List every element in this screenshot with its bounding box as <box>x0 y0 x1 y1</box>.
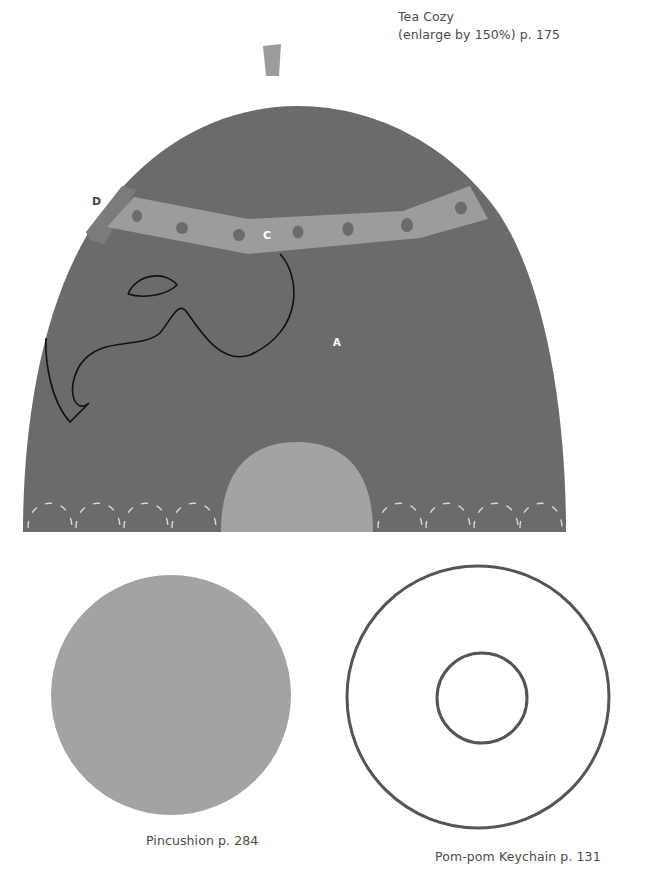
piece-label-a: A <box>333 337 341 349</box>
pincushion-caption: Pincushion p. 284 <box>146 832 258 850</box>
piece-label-c: C <box>263 230 271 242</box>
piece-label-b: B <box>267 10 275 22</box>
piece-label-d: D <box>92 196 101 208</box>
pattern-template-page: B C A D Tea Cozy (enlarge by 150%) p. 17… <box>0 0 650 887</box>
tea-cozy-caption: Tea Cozy (enlarge by 150%) p. 175 <box>398 8 560 44</box>
tea-cozy-piece-b-tab <box>263 44 281 76</box>
tea-cozy-title: Tea Cozy <box>398 8 560 26</box>
pompom-keychain-caption: Pom-pom Keychain p. 131 <box>435 848 601 866</box>
pompom-outer-ring <box>347 566 609 828</box>
pattern-drawing <box>0 0 650 887</box>
pincushion-circle <box>51 575 291 815</box>
tea-cozy-subtitle: (enlarge by 150%) p. 175 <box>398 26 560 44</box>
pompom-inner-ring <box>437 653 527 743</box>
